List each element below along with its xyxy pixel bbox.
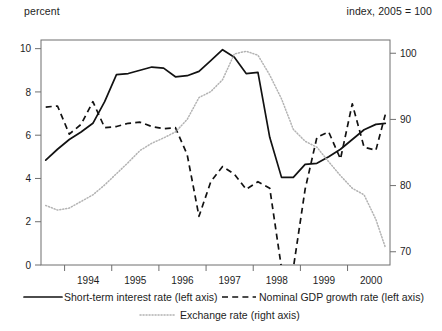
axis-ticks	[35, 49, 396, 271]
series-line-1	[46, 50, 386, 178]
axis-tick-labels: 1994199519961997199819992000024681070809…	[20, 43, 417, 286]
x-tick-label: 1994	[77, 275, 100, 286]
figure-container: percent index, 2005 = 100 19941995199619…	[0, 0, 442, 331]
series-line-3	[46, 51, 386, 247]
legend-label-nominal-gdp-growth-rate: Nominal GDP growth rate (left axis)	[259, 291, 424, 303]
x-tick-label: 1996	[171, 275, 194, 286]
line-chart: 1994199519961997199819992000024681070809…	[0, 0, 442, 331]
x-tick-label: 1995	[124, 275, 147, 286]
y-tick-label: 2	[25, 216, 31, 227]
legend-label-exchange-rate: Exchange rate (right axis)	[180, 309, 300, 321]
x-tick-label: 1998	[266, 275, 289, 286]
y-tick-label: 10	[20, 43, 32, 54]
x-tick-label: 1999	[313, 275, 336, 286]
y2-tick-label: 80	[400, 180, 412, 191]
y-tick-label: 0	[25, 260, 31, 271]
legend-label-short-term-interest-rate: Short-term interest rate (left axis)	[64, 291, 217, 303]
chart-legend: Short-term interest rate (left axis)Nomi…	[24, 291, 424, 321]
x-tick-label: 1997	[219, 275, 242, 286]
x-tick-label: 2000	[360, 275, 383, 286]
y-tick-label: 8	[25, 87, 31, 98]
y-tick-label: 4	[25, 173, 31, 184]
y-tick-label: 6	[25, 130, 31, 141]
y2-tick-label: 90	[400, 114, 412, 125]
data-series-group	[46, 50, 386, 269]
y2-tick-label: 70	[400, 246, 412, 257]
series-line-2	[46, 102, 386, 269]
y2-tick-label: 100	[400, 48, 417, 59]
